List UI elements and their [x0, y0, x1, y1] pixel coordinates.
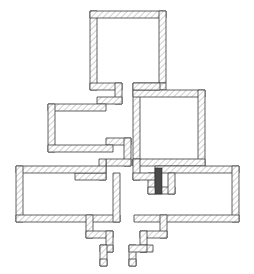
wall-bl-room-bottom [16, 215, 120, 222]
floor-plan-drawing [0, 0, 254, 274]
wall-right-room-bottom [133, 159, 205, 166]
page-background [0, 0, 254, 274]
wall-top-room-left [90, 11, 97, 90]
wall-left-spine-foot-base [75, 173, 106, 180]
wall-br-room-right [232, 166, 239, 222]
wall-right-room-top-riser [133, 83, 160, 90]
wall-pbl-tip-cap [100, 259, 107, 266]
wall-left-spine-step-top [97, 97, 122, 104]
door-element[interactable] [155, 168, 162, 194]
wall-br-room-top [155, 166, 239, 173]
wall-left-room-bottom [48, 145, 113, 152]
wall-right-room-top [133, 90, 205, 97]
wall-bl-room-left [16, 166, 23, 222]
wall-bl-room-right [113, 173, 120, 222]
wall-right-spine-base [133, 173, 155, 180]
wall-br-room-bottom [134, 215, 239, 222]
wall-left-room-top [48, 104, 106, 111]
wall-br-room-inner-riser [168, 173, 175, 194]
wall-bl-room-top [16, 166, 106, 173]
wall-top-room-top [90, 11, 166, 18]
wall-pbr-tip-cap [129, 259, 136, 266]
wall-pbr-tip-link [129, 245, 147, 252]
floor-plan-canvas: Floor Plan 254 274 [0, 0, 254, 274]
wall-top-room-right [159, 11, 166, 83]
wall-right-room-right [198, 90, 205, 166]
wall-left-spine-step-bottom [106, 159, 131, 166]
